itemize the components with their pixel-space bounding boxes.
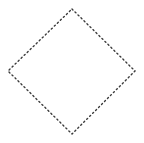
canvas-background (0, 0, 144, 143)
drawing-canvas (0, 0, 144, 143)
shape-canvas-svg (0, 0, 144, 143)
